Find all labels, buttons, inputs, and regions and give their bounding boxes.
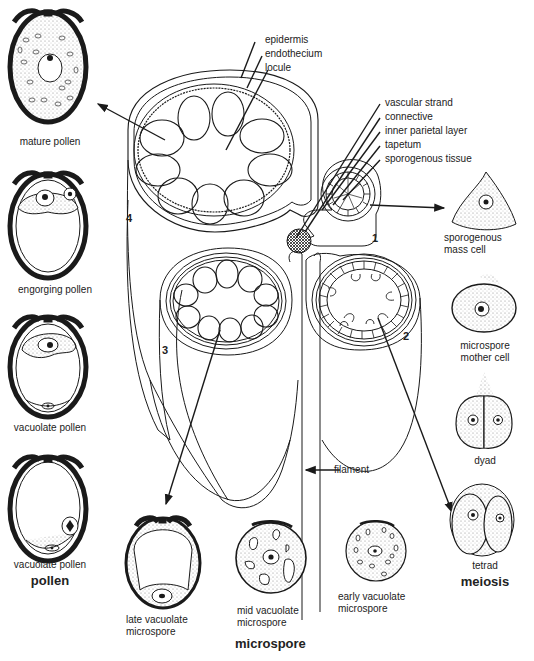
label-mature-pollen: mature pollen xyxy=(0,136,100,148)
label-inner-parietal-layer: inner parietal layer xyxy=(385,125,467,138)
label-locule: locule xyxy=(265,62,291,75)
arrow-to-sporogenous-cell xyxy=(370,205,444,208)
label-vacuolate-pollen-2: vacuolate pollen xyxy=(0,559,100,571)
locule-number-1: 1 xyxy=(372,232,378,244)
label-mid-vacuolate-microspore: mid vacuolate microspore xyxy=(237,605,299,629)
label-tapetum: tapetum xyxy=(385,139,421,152)
mid-vacuolate-microspore xyxy=(236,521,306,593)
tetrad xyxy=(450,484,514,556)
mature-pollen-cell xyxy=(10,10,86,122)
locule-3 xyxy=(159,248,298,508)
label-vascular-strand: vascular strand xyxy=(385,97,453,110)
locule-4-pollen-grains xyxy=(136,92,292,224)
label-connective: connective xyxy=(385,111,433,124)
label-late-vacuolate-microspore: late vacuolate microspore xyxy=(126,614,188,638)
locule-2 xyxy=(306,253,421,471)
group-label-microspore: microspore xyxy=(235,638,306,650)
group-label-meiosis: meiosis xyxy=(440,576,530,588)
locule-number-4: 4 xyxy=(126,212,132,224)
label-epidermis: epidermis xyxy=(265,34,308,47)
locule-number-3: 3 xyxy=(162,344,168,356)
group-label-pollen: pollen xyxy=(0,575,100,587)
label-dyad: dyad xyxy=(440,455,530,467)
label-tetrad: tetrad xyxy=(440,560,530,572)
label-filament: filament xyxy=(334,464,369,477)
late-vacuolate-microspore xyxy=(126,518,200,608)
label-sporogenous-mass-cell: sporogenous mass cell xyxy=(444,232,528,256)
label-endothecium: endothecium xyxy=(265,48,322,61)
microspore-mother-cell xyxy=(452,274,516,332)
label-sporogenous-tissue: sporogenous tissue xyxy=(385,153,472,166)
label-microspore-mother-cell: microspore mother cell xyxy=(440,340,530,364)
vacuolate-pollen-cell-2 xyxy=(10,456,86,561)
label-vacuolate-pollen-1: vacuolate pollen xyxy=(0,422,100,434)
arrow-to-mature-pollen xyxy=(98,104,165,140)
vacuolate-pollen-cell-1 xyxy=(10,316,86,417)
sporogenous-mass-cell xyxy=(452,172,516,230)
early-vacuolate-microspore xyxy=(346,521,406,581)
label-engorging-pollen: engorging pollen xyxy=(0,284,110,296)
engorging-pollen-cell xyxy=(10,172,86,278)
dyad xyxy=(456,372,512,448)
label-early-vacuolate-microspore: early vacuolate microspore xyxy=(338,591,405,615)
locule-3-pollen-grains xyxy=(174,260,278,342)
arrow-to-late-vacuolate xyxy=(166,330,220,504)
locule-number-2: 2 xyxy=(403,330,409,342)
